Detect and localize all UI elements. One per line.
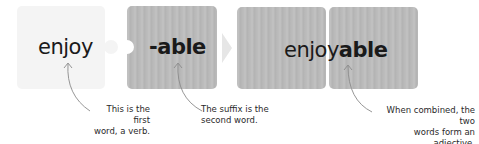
annotation-line-combined	[348, 66, 372, 112]
annotation-line-first-word	[68, 64, 90, 111]
annotation-first-word: This is the first word, a verb.	[88, 104, 150, 137]
annotation-line-suffix	[178, 64, 202, 111]
annotation-suffix-line2: second word.	[201, 115, 281, 126]
annotation-first-word-line1: This is the first	[88, 104, 150, 126]
annotation-suffix: The suffix is the second word.	[201, 104, 281, 126]
annotation-combined-line1: When combined, the two	[370, 105, 475, 127]
annotation-combined: When combined, the two words form an adj…	[370, 105, 475, 144]
annotation-first-word-line2: word, a verb.	[88, 126, 150, 137]
annotation-combined-line2: words form an adjective.	[370, 127, 475, 144]
annotation-suffix-line1: The suffix is the	[201, 104, 281, 115]
